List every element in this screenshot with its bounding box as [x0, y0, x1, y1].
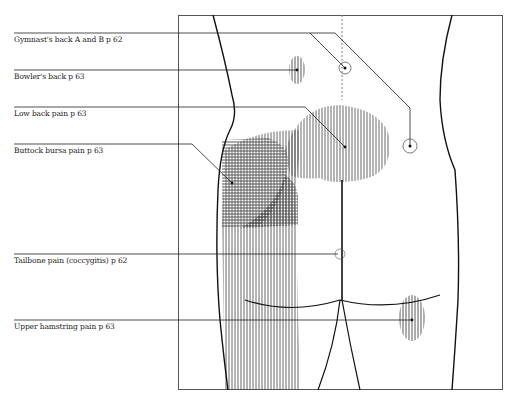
label-low-back-pain: Low back pain p 63 [14, 109, 87, 118]
label-tailbone-pain: Tailbone pain (coccygitis) p 62 [14, 256, 127, 265]
label-gymnasts-back: Gymnast's back A and B p 62 [14, 35, 122, 44]
label-upper-hamstring-pain: Upper hamstring pain p 63 [14, 322, 115, 331]
anatomy-illustration [0, 0, 518, 419]
label-buttock-bursa-pain: Buttock bursa pain p 63 [14, 146, 103, 155]
pain-regions [222, 56, 425, 390]
label-bowlers-back: Bowler's back p 63 [14, 72, 85, 81]
